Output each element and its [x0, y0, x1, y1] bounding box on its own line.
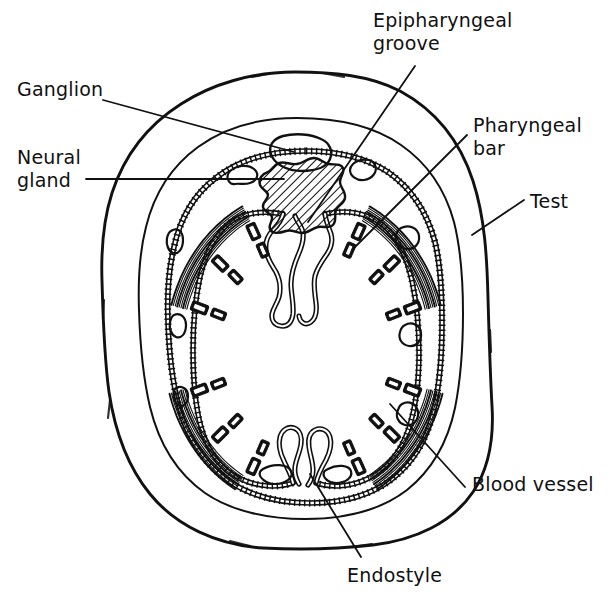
label-blood-vessel: Blood vessel [472, 473, 594, 496]
wall-cell-rung [166, 274, 172, 275]
label-epipharyngeal-line1: Epipharyngeal [373, 9, 512, 31]
wall-cell-rung [336, 150, 337, 156]
wall-cell-rung [167, 354, 173, 355]
pharyngeal-bar [210, 377, 227, 391]
label-ganglion: Ganglion [17, 78, 103, 101]
label-pharyngeal-bar-line2: bar [473, 137, 505, 159]
pharyngeal-bar [227, 412, 244, 429]
wall-cell-rung [350, 209, 351, 215]
label-pharyngeal-bar-line1: Pharyngeal [473, 114, 582, 136]
leader-lines [86, 66, 524, 557]
wall-cell-rung [253, 211, 254, 217]
wall-cell-rung [195, 288, 201, 289]
neural-gland-fill [259, 158, 345, 233]
wall-cell-rung [334, 499, 335, 505]
wall-cell-rung [169, 373, 175, 374]
wall-cell-rung [168, 359, 174, 360]
wall-cell-rung [326, 149, 327, 155]
neural-gland [259, 158, 345, 233]
wall-cell-rung [168, 264, 174, 265]
pharyngeal-bar [211, 425, 230, 444]
label-pharyngeal-bar: Pharyngealbar [473, 114, 582, 160]
pharyngeal-bar [351, 457, 367, 477]
pharyngeal-bar [382, 425, 401, 444]
bar-lumen [214, 257, 227, 270]
pharyngeal-bar [382, 254, 401, 273]
pharyngeal-bars [190, 222, 422, 476]
bar-lumen [371, 416, 381, 427]
wall-cell-rung [330, 483, 331, 489]
pharyngeal-bar [256, 439, 270, 456]
wall-cell-rung [437, 270, 443, 271]
bar-lumen [214, 428, 227, 441]
label-neural-gland-line2: gland [17, 169, 71, 191]
wall-cell-rung [414, 315, 420, 316]
bar-lumen [230, 416, 240, 427]
wall-cell-rung [171, 383, 177, 384]
label-test: Test [530, 190, 568, 213]
pharyngeal-bar [211, 254, 230, 273]
wall-cell-rung [193, 402, 199, 403]
wall-cell-rung [437, 375, 443, 376]
blood-vessel-lumen [324, 466, 352, 483]
wall-cell-rung [339, 498, 340, 504]
wall-cell-rung [435, 390, 441, 391]
wall-cell-rung [166, 279, 172, 280]
figure-root: Ganglion Neuralgland Epipharyngealgroove… [0, 0, 611, 604]
wall-cell-rung [435, 255, 441, 256]
label-neural-gland-line1: Neural [17, 146, 81, 168]
pharyngeal-bar [385, 307, 402, 321]
pharyngeal-bar [342, 241, 356, 258]
wall-cell-rung [169, 369, 175, 370]
pharyngeal-bar [368, 412, 385, 429]
bar-lumen [386, 428, 399, 441]
wall-cell-rung [280, 150, 281, 156]
wall-cell-rung [344, 483, 345, 489]
blood-vessel-lumen [170, 314, 186, 337]
wall-cell-rung [437, 370, 443, 371]
wall-cell-rung [194, 407, 200, 408]
pharynx-wall-cell-rungs [190, 209, 422, 489]
leader-ganglion [103, 100, 294, 152]
wall-cell-rung [279, 498, 280, 504]
wall-cell-rung [167, 269, 173, 270]
pharyngeal-bar [227, 268, 244, 285]
pharyngeal-bar [210, 307, 227, 321]
label-epipharyngeal-groove: Epipharyngealgroove [373, 9, 512, 55]
wall-cell-rung [412, 295, 418, 296]
wall-cell-rung [436, 265, 442, 266]
wall-cell-rung [437, 275, 443, 276]
wall-cell-rung [194, 293, 200, 294]
wall-cell-rung [168, 364, 174, 365]
wall-cell-rung [411, 290, 417, 291]
pharyngeal-bar [342, 439, 356, 456]
wall-cell-rung [324, 482, 325, 488]
wall-cell-rung [258, 210, 259, 216]
wall-cell-rung [341, 151, 342, 157]
blood-vessel-lumen [260, 465, 292, 484]
label-endostyle: Endostyle [347, 564, 442, 587]
wall-cell-rung [284, 498, 285, 504]
wall-cell-rung [275, 150, 276, 156]
wall-cell-rung [194, 298, 200, 299]
wall-cell-rung [435, 385, 441, 386]
label-neural-gland: Neuralgland [17, 146, 81, 192]
pharyngeal-bar [385, 377, 402, 391]
bar-lumen [386, 257, 399, 270]
wall-cell-rung [413, 400, 419, 401]
wall-cell-rung [436, 380, 442, 381]
wall-cell-rung [170, 378, 176, 379]
pharyngeal-bar [245, 222, 261, 242]
bar-lumen [371, 272, 381, 283]
wall-cell-rung [289, 499, 290, 505]
wall-cell-rung [169, 259, 175, 260]
blood-vessel-lumen [228, 166, 258, 184]
wall-cell-rung [354, 210, 355, 216]
pharyngeal-bar [368, 268, 385, 285]
label-epipharyngeal-line2: groove [373, 32, 440, 54]
bar-lumen [230, 272, 240, 283]
wall-cell-rung [436, 260, 442, 261]
wall-cell-rung [262, 483, 263, 489]
